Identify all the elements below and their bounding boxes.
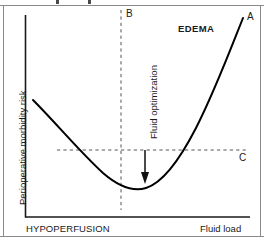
reference-label-b: B — [126, 9, 133, 19]
y-axis-label: Perioperative morbidity risk — [18, 90, 28, 205]
x-axis-label-right: Fluid load — [200, 224, 241, 234]
figure-container: Perioperative morbidity risk A B C EDEMA… — [0, 0, 264, 242]
edema-region-label: EDEMA — [178, 24, 214, 34]
chart-plot-area — [0, 0, 264, 242]
x-axis-label-left: HYPOPERFUSION — [26, 224, 110, 234]
fluid-optimization-arrow — [141, 150, 149, 184]
morbidity-risk-curve — [33, 18, 243, 189]
fluid-optimization-label: Fluid optimization — [149, 65, 159, 139]
curve-label-a: A — [247, 12, 254, 22]
reference-label-c: C — [239, 153, 246, 163]
